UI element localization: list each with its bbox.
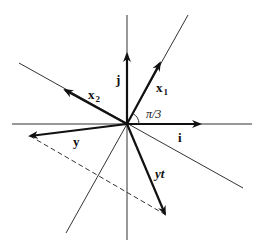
x1-label: x1 <box>156 80 169 97</box>
angle-arc <box>133 114 139 124</box>
angle-label: π/3 <box>146 107 161 121</box>
j-label: j <box>115 72 120 87</box>
vector-diagram: i j x1 x2 y yt π/3 <box>0 0 262 249</box>
yt-label: yt <box>153 166 165 181</box>
x2-label: x2 <box>88 87 101 104</box>
x2-line <box>19 63 243 188</box>
y-label: y <box>73 134 80 149</box>
i-label: i <box>178 130 182 145</box>
